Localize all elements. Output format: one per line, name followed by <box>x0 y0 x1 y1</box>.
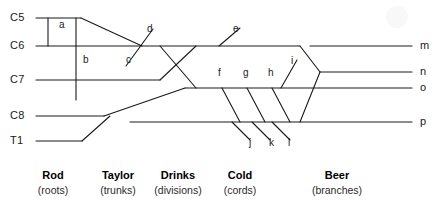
h-tick <box>272 88 290 122</box>
segment-label-d: d <box>147 24 153 34</box>
C6-down-cross <box>160 46 196 88</box>
category-name: Cold <box>224 168 257 183</box>
i-tick <box>281 60 297 88</box>
category-drinks: Drinks(divisions) <box>154 168 201 197</box>
left-node-label-C6: C6 <box>10 40 24 51</box>
right-node-label-n: n <box>420 66 426 77</box>
segment-label-k: k <box>269 138 274 148</box>
g-tick <box>247 88 265 122</box>
segment-label-j: j <box>249 138 251 148</box>
left-node-label-C7: C7 <box>10 74 24 85</box>
C8-to-p-diagonal <box>104 88 185 116</box>
right-node-label-o: o <box>420 82 426 93</box>
T1-to-C8-diagonal <box>82 116 110 141</box>
segment-label-h: h <box>268 68 274 78</box>
category-subtitle: (divisions) <box>154 183 201 197</box>
category-name: Taylor <box>100 168 136 183</box>
segment-label-l: l <box>288 138 290 148</box>
category-beer: Beer(branches) <box>312 168 362 197</box>
left-node-label-C8: C8 <box>10 110 24 121</box>
segment-label-i: i <box>291 56 293 66</box>
category-taylor: Taylor(trunks) <box>100 168 136 197</box>
category-rod: Rod(roots) <box>38 168 68 197</box>
category-name: Drinks <box>154 168 201 183</box>
segment-label-g: g <box>243 68 249 78</box>
C7-up-cross <box>160 46 196 80</box>
left-node-label-C5: C5 <box>10 12 24 23</box>
j-tick <box>232 122 250 140</box>
category-name: Rod <box>38 168 68 183</box>
segment-label-f: f <box>218 68 221 78</box>
left-node-label-T1: T1 <box>10 135 23 146</box>
category-subtitle: (trunks) <box>100 183 136 197</box>
right-node-label-p: p <box>420 116 426 127</box>
category-name: Beer <box>312 168 362 183</box>
segment-label-a: a <box>59 20 65 30</box>
category-cold: Cold(cords) <box>224 168 257 197</box>
category-subtitle: (roots) <box>38 183 68 197</box>
category-subtitle: (cords) <box>224 183 257 197</box>
segment-label-b: b <box>83 55 89 65</box>
segment-label-e: e <box>233 24 239 34</box>
segment-label-c: c <box>126 55 131 65</box>
k-tick <box>252 122 270 140</box>
category-subtitle: (branches) <box>312 183 362 197</box>
lineage-diagram: C5C6C7C8T1 mnop abcdefghijkl Rod(roots)T… <box>0 0 439 204</box>
C5-to-C6-diagonal <box>81 18 142 46</box>
f-tick <box>222 88 240 122</box>
right-node-label-m: m <box>420 40 429 51</box>
m-join-upper <box>300 46 320 72</box>
p-join-lower <box>300 72 320 122</box>
